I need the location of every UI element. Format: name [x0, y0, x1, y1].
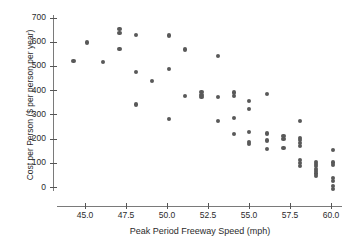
- x-tick-label: 47.5: [109, 211, 143, 220]
- data-point: [101, 60, 105, 64]
- data-point: [314, 164, 318, 168]
- x-tick-mark: [208, 203, 209, 209]
- data-point: [298, 141, 302, 145]
- data-point: [331, 187, 335, 191]
- data-point: [331, 176, 335, 180]
- data-point: [167, 117, 171, 121]
- data-point: [134, 70, 138, 74]
- data-point: [314, 171, 318, 175]
- data-point: [150, 79, 154, 83]
- data-point: [298, 119, 302, 123]
- data-point: [247, 140, 251, 144]
- data-point: [265, 138, 269, 142]
- x-tick-mark: [249, 203, 250, 209]
- data-point: [216, 54, 220, 58]
- data-point: [216, 95, 220, 99]
- y-tick-mark: [50, 66, 57, 67]
- data-point: [167, 33, 171, 37]
- x-tick-label: 57.5: [273, 211, 307, 220]
- data-point: [298, 161, 302, 165]
- x-axis-line: [57, 206, 342, 207]
- data-point: [134, 102, 138, 106]
- y-tick-mark: [50, 18, 57, 19]
- data-point: [265, 131, 269, 135]
- x-tick-label: 60.0: [314, 211, 348, 220]
- data-point: [232, 94, 236, 98]
- data-point: [117, 27, 121, 31]
- data-point: [199, 95, 203, 99]
- data-point: [314, 174, 318, 178]
- data-point: [298, 144, 302, 148]
- x-tick-mark: [85, 203, 86, 209]
- y-tick-mark: [50, 90, 57, 91]
- y-tick-mark: [50, 139, 57, 140]
- y-tick-mark: [50, 187, 57, 188]
- data-point: [247, 142, 251, 146]
- data-point: [298, 164, 302, 168]
- data-point: [331, 163, 335, 167]
- y-axis-title: Cost per Person ($ per person per year): [25, 15, 35, 195]
- data-point: [247, 130, 251, 134]
- data-point: [71, 59, 75, 63]
- data-point: [232, 90, 236, 94]
- data-point: [314, 162, 318, 166]
- data-point: [298, 136, 302, 140]
- y-tick-mark: [50, 163, 57, 164]
- data-point: [183, 47, 187, 51]
- data-point: [265, 92, 269, 96]
- x-tick-label: 45.0: [68, 211, 102, 220]
- data-point: [265, 147, 269, 151]
- data-point: [85, 40, 89, 44]
- data-point: [281, 134, 285, 138]
- data-point: [134, 33, 138, 37]
- data-point: [331, 179, 335, 183]
- data-point: [298, 158, 302, 162]
- data-point: [247, 99, 251, 103]
- x-tick-mark: [126, 203, 127, 209]
- data-point: [331, 160, 335, 164]
- data-point: [331, 148, 335, 152]
- data-point: [232, 132, 236, 136]
- data-point: [183, 94, 187, 98]
- scatter-plot-figure: 0100200300400500600700 45.047.550.052.55…: [0, 0, 351, 242]
- plot-title: [0, 0, 351, 6]
- x-tick-label: 55.0: [232, 211, 266, 220]
- data-point: [247, 107, 251, 111]
- data-point: [232, 116, 236, 120]
- data-point: [298, 138, 302, 142]
- data-point: [199, 93, 203, 97]
- x-tick-mark: [331, 203, 332, 209]
- data-point: [167, 67, 171, 71]
- x-tick-mark: [167, 203, 168, 209]
- data-point: [281, 146, 285, 150]
- x-tick-label: 50.0: [150, 211, 184, 220]
- data-point: [314, 167, 318, 171]
- data-point: [314, 169, 318, 173]
- y-tick-mark: [50, 42, 57, 43]
- data-point: [216, 119, 220, 123]
- data-point: [314, 160, 318, 164]
- data-point: [281, 137, 285, 141]
- data-point: [117, 47, 121, 51]
- y-tick-mark: [50, 114, 57, 115]
- x-axis-title: Peak Period Freeway Speed (mph): [55, 226, 345, 236]
- data-point: [199, 90, 203, 94]
- data-point: [331, 184, 335, 188]
- x-tick-label: 52.5: [191, 211, 225, 220]
- x-tick-mark: [290, 203, 291, 209]
- data-point: [117, 31, 121, 35]
